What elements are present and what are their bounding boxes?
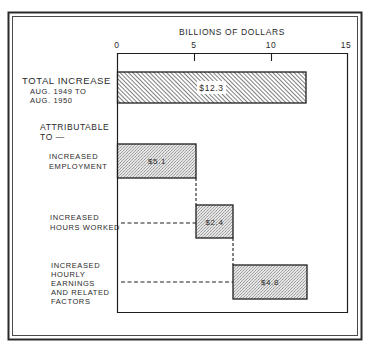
label-total-line2: AUG. 1949 TO xyxy=(30,87,87,96)
label-earn-line1: INCREASED xyxy=(51,261,100,270)
label-total-line3: AUG. 1950 xyxy=(30,96,73,105)
label-earn-line4: AND RELATED xyxy=(51,288,110,297)
category-label-hours: INCREASED HOURS WORKED xyxy=(50,213,120,232)
label-attr-line2: TO — xyxy=(40,132,65,142)
chart-canvas: BILLIONS OF DOLLARS 0 5 10 15 $12.3 $5.1… xyxy=(0,0,370,350)
bar-hours-value: $2.4 xyxy=(206,218,224,227)
label-attr-line1: ATTRIBUTABLE xyxy=(40,122,109,132)
label-emp-line2: EMPLOYMENT xyxy=(49,162,108,171)
group-label-attributable: ATTRIBUTABLE TO — xyxy=(40,122,109,142)
bar-total-value: $12.3 xyxy=(199,83,223,93)
tick-label-10: 10 xyxy=(266,40,277,50)
label-earn-line3: EARNINGS xyxy=(51,279,95,288)
axis-title: BILLIONS OF DOLLARS xyxy=(179,27,285,37)
bar-earnings-value: $4.8 xyxy=(261,278,279,287)
category-label-total: TOTAL INCREASE AUG. 1949 TO AUG. 1950 xyxy=(22,75,111,105)
label-earn-line2: HOURLY xyxy=(51,270,85,279)
tick-label-5: 5 xyxy=(191,40,196,50)
tick-label-15: 15 xyxy=(341,40,352,50)
label-hours-line2: HOURS WORKED xyxy=(50,223,120,232)
label-earn-line5: FACTORS xyxy=(51,297,90,306)
category-label-employment: INCREASED EMPLOYMENT xyxy=(49,152,108,171)
label-emp-line1: INCREASED xyxy=(49,152,98,161)
bar-employment-value: $5.1 xyxy=(148,157,166,166)
label-total-line1: TOTAL INCREASE xyxy=(22,75,111,86)
tick-label-0: 0 xyxy=(114,40,119,50)
label-hours-line1: INCREASED xyxy=(50,213,99,222)
category-label-earnings: INCREASED HOURLY EARNINGS AND RELATED FA… xyxy=(51,261,110,306)
